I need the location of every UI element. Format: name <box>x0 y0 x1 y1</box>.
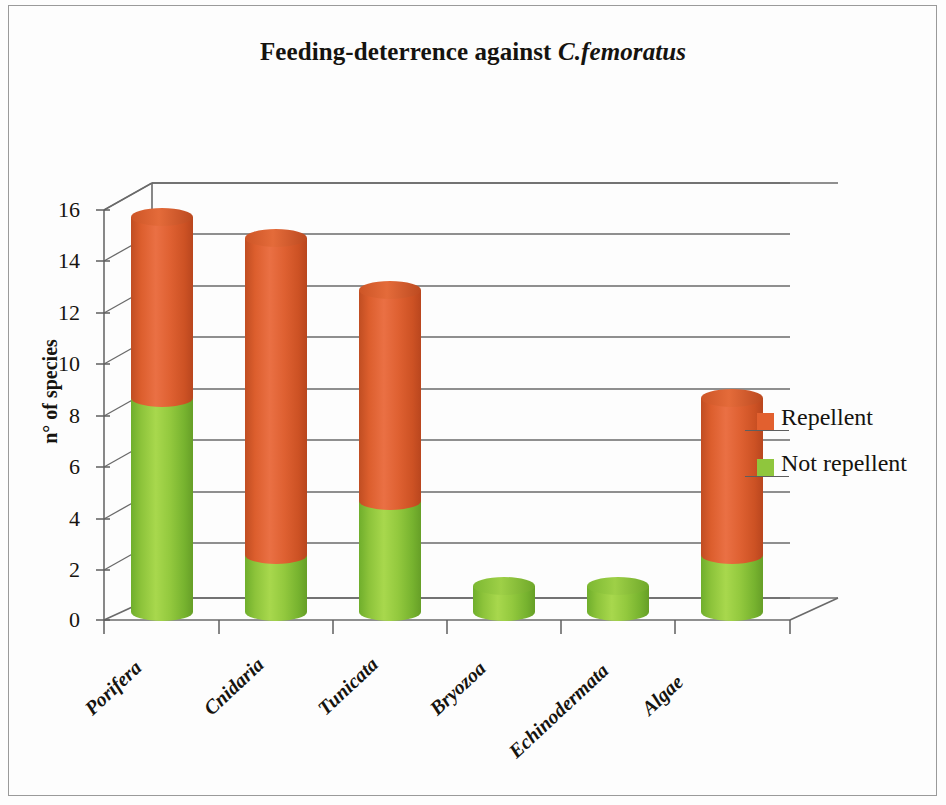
y-tick-label-0: 0 <box>34 609 80 631</box>
bar-cap <box>131 208 193 226</box>
legend-label-repellent: Repellent <box>781 404 873 431</box>
legend-label-not-repellent: Not repellent <box>781 450 907 477</box>
bar-cap <box>245 229 307 247</box>
y-tick-label-4: 4 <box>34 508 80 530</box>
bar-segment-repellent <box>131 217 193 407</box>
chart-page: Feeding-deterrence against C.femoratus <box>0 0 946 805</box>
plot-area: 16 14 12 10 8 6 4 2 0 n° of species Pori… <box>0 0 946 805</box>
bar-cap <box>473 577 535 595</box>
y-axis-title: n° of species <box>39 312 62 472</box>
bar-segment-repellent <box>701 398 763 564</box>
bar-segment-repellent <box>359 290 421 510</box>
bar-segment-not-repellent <box>131 398 193 621</box>
bar-group-bryozoa <box>473 577 535 621</box>
bar-segment-not-repellent <box>359 501 421 621</box>
bar-segment-not-repellent <box>701 555 763 621</box>
bar-group-echinodermata <box>587 577 649 621</box>
bar-group-tunicata <box>359 281 421 621</box>
bar-group-cnidaria <box>245 229 307 621</box>
legend-swatch-not-repellent <box>757 459 774 476</box>
y-tick-label-16: 16 <box>34 199 80 221</box>
bar-group-porifera <box>131 208 193 621</box>
y-tick-label-2: 2 <box>34 559 80 581</box>
bar-cap <box>359 281 421 299</box>
bar-segment-repellent <box>245 238 307 564</box>
bar-cap <box>587 577 649 595</box>
bar-cap <box>701 389 763 407</box>
legend-swatch-repellent <box>757 413 774 430</box>
bar-segment-not-repellent <box>245 555 307 621</box>
bar-group-algae <box>701 389 763 621</box>
y-tick-label-14: 14 <box>34 250 80 272</box>
